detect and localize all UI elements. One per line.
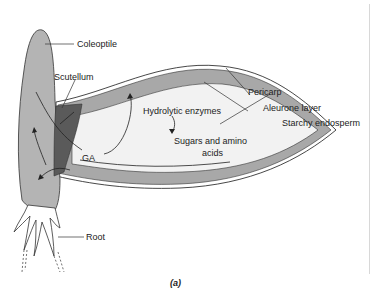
- page-edge-divider: [369, 4, 370, 274]
- label-scutellum: Scutellum: [54, 73, 94, 82]
- figure-caption: (a): [170, 278, 181, 288]
- seed-germination-diagram: Coleoptile Scutellum GA Pericarp Aleuron…: [0, 0, 371, 291]
- root-dashed-tips: [22, 250, 64, 272]
- label-sugars-line2: acids: [202, 149, 223, 158]
- label-hydrolytic-enzymes: Hydrolytic enzymes: [143, 107, 221, 116]
- label-starchy-endosperm: Starchy endosperm: [282, 119, 360, 128]
- embryo-shape: [18, 30, 60, 211]
- label-pericarp: Pericarp: [248, 88, 282, 97]
- label-aleurone-layer: Aleurone layer: [263, 104, 321, 113]
- label-ga: GA: [82, 154, 95, 163]
- label-sugars-line1: Sugars and amino: [174, 137, 247, 146]
- roots-shape: [14, 205, 60, 256]
- label-coleoptile: Coleoptile: [77, 40, 117, 49]
- label-root: Root: [86, 233, 105, 242]
